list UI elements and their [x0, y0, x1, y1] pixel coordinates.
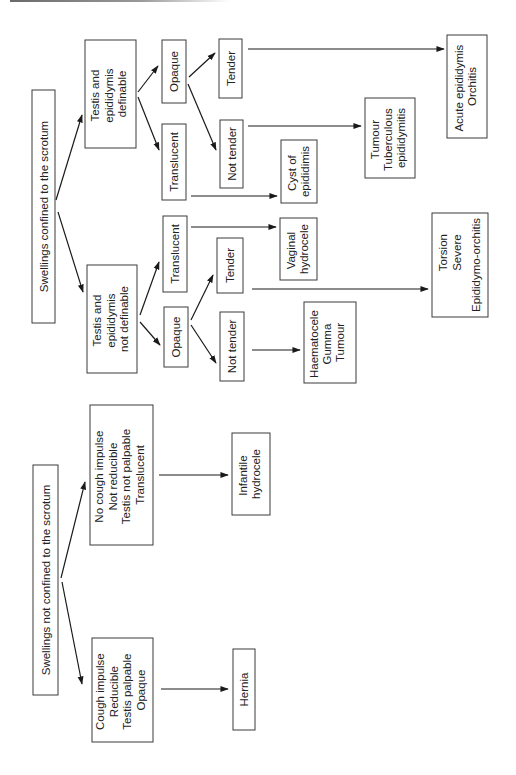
- node-not-definable-opaque-not-tender: Not tender: [220, 312, 244, 381]
- node-cough-impulse: Cough impulse Reducible Testis palpable …: [92, 638, 153, 742]
- edge-def-opaque-to-not-tender: [188, 84, 216, 150]
- node-label: Testis palpable: [121, 654, 133, 730]
- node-torsion-severe-epididymo-orchitis: Torsion Severe Epididymo-orchitis: [432, 213, 488, 317]
- svg-text:Swellings confined to the scro: Swellings confined to the scrotum: [38, 121, 50, 292]
- svg-text:Not tender: Not tender: [226, 127, 238, 181]
- node-hernia: Hernia: [233, 649, 255, 730]
- node-label: epididimis: [299, 146, 311, 197]
- node-label: Acute epididymis: [453, 44, 465, 131]
- node-label: Infantile: [237, 455, 249, 495]
- node-label: hydrocele: [250, 449, 262, 499]
- node-definable-translucent: Translucent: [162, 124, 186, 200]
- node-testis-epididymis-definable: Testis and epididymis definable: [85, 40, 136, 148]
- node-label: not definable: [118, 286, 130, 352]
- node-label: Epididymo-orchitis: [470, 218, 482, 312]
- node-label: Opaque: [168, 51, 180, 92]
- svg-text:Swellings not confined to the: Swellings not confined to the scrotum: [40, 485, 52, 676]
- edge-def-opaque-to-tender: [189, 53, 215, 77]
- node-label: Opaque: [170, 317, 182, 358]
- node-label: Opaque: [135, 670, 147, 711]
- svg-text:Testis and epididymis: Testis and epididymis definable: [89, 65, 128, 123]
- svg-text:Testis and epididymis: Testis and epididymis not definable: [91, 286, 130, 352]
- node-label: Not tender: [226, 319, 238, 373]
- svg-text:Tender: Tender: [225, 51, 237, 86]
- node-label: Gumma: [321, 323, 333, 365]
- node-label: Not tender: [226, 127, 238, 181]
- node-label: Tuberculous: [382, 108, 394, 171]
- edge-not-definable-to-translucent: [140, 262, 159, 315]
- edge-root-not-confined-to-cough: [62, 582, 82, 684]
- node-label: Tumour: [334, 323, 346, 362]
- node-label: hydrocele: [298, 224, 310, 274]
- node-label: definable: [116, 71, 128, 118]
- node-tumour-tuberculous-epididymitis: Tumour Tuberculous epididymitis: [365, 98, 415, 178]
- node-cyst-of-epididimis: Cyst of epididimis: [281, 140, 317, 203]
- node-label: Hernia: [238, 672, 250, 706]
- node-infantile-hydrocele: Infantile hydrocele: [232, 433, 270, 515]
- node-label: Translucent: [168, 131, 180, 191]
- node-label: epididymis: [103, 68, 115, 123]
- node-label: Orchitis: [466, 67, 478, 106]
- node-label: Cyst of: [286, 154, 298, 191]
- node-acute-epididymis-orchitis: Acute epididymis Orchitis: [447, 35, 487, 138]
- node-no-cough-impulse: No cough impulse Not reducible Testis no…: [90, 405, 153, 545]
- node-label: Torsion: [437, 234, 449, 271]
- node-not-definable-opaque-tender: Tender: [217, 238, 243, 293]
- node-label: Tender: [224, 248, 236, 283]
- node-haematocele-gumma-tumour: Haematocele Gumma Tumour: [304, 302, 356, 383]
- node-label: epididymis: [105, 293, 117, 348]
- edge-ndef-opaque-to-not-tender: [191, 325, 216, 363]
- node-definable-opaque-not-tender: Not tender: [220, 120, 243, 188]
- node-not-definable-translucent: Translucent: [163, 216, 187, 292]
- svg-text:Vaginal hydrocele: Vaginal hydrocele: [285, 224, 310, 274]
- node-label: Swellings confined to the scrotum: [38, 121, 50, 292]
- node-testis-epididymis-not-definable: Testis and epididymis not definable: [87, 265, 137, 373]
- svg-text:Hernia: Hernia: [238, 672, 250, 706]
- edge-ndef-opaque-to-tender: [191, 275, 213, 320]
- node-not-definable-opaque: Opaque: [164, 307, 188, 367]
- svg-text:Not tender: Not tender: [226, 319, 238, 373]
- node-label: Testis not palpable: [120, 429, 132, 524]
- node-label: No cough impulse: [93, 431, 105, 523]
- node-label: Cough impulse: [94, 653, 106, 730]
- node-label: Severe: [451, 234, 463, 270]
- node-label: Translucent: [169, 223, 181, 283]
- svg-text:Translucent: Translucent: [169, 223, 181, 283]
- flowchart-canvas: Swellings confined to the scrotum Swelli…: [0, 0, 516, 775]
- edge-root-confined-to-not-definable: [58, 212, 83, 292]
- node-label: Testis and: [91, 295, 103, 347]
- edge-not-definable-to-opaque: [140, 322, 160, 345]
- edge-root-confined-to-definable: [56, 115, 82, 200]
- edge-definable-to-opaque: [138, 66, 158, 92]
- node-label: Swellings not confined to the scrotum: [40, 485, 52, 676]
- node-label: Translucent: [134, 444, 146, 504]
- svg-text:Infantile hydrocele: Infantile hydrocele: [237, 449, 262, 499]
- svg-text:Cyst of epididimis: Cyst of epididimis: [286, 146, 311, 197]
- edge-definable-to-translucent: [138, 97, 159, 150]
- node-definable-opaque: Opaque: [162, 40, 186, 103]
- node-vaginal-hydrocele: Vaginal hydrocele: [280, 218, 317, 280]
- node-label: Testis and: [89, 70, 101, 122]
- node-label: Haematocele: [308, 310, 320, 378]
- node-root-confined: Swellings confined to the scrotum: [32, 90, 55, 323]
- svg-text:Opaque: Opaque: [168, 51, 180, 92]
- node-root-not-confined: Swellings not confined to the scrotum: [33, 465, 58, 695]
- svg-text:Opaque: Opaque: [170, 317, 182, 358]
- svg-text:Translucent: Translucent: [168, 131, 180, 191]
- node-label: Tender: [225, 51, 237, 86]
- node-label: Not reducible: [107, 443, 119, 511]
- edge-root-not-confined-to-no-cough: [61, 482, 85, 578]
- node-label: epididymitis: [395, 108, 407, 168]
- node-label: Vaginal: [285, 232, 297, 270]
- node-label: Reducible: [108, 666, 120, 717]
- svg-text:Tender: Tender: [224, 248, 236, 283]
- node-definable-opaque-tender: Tender: [219, 39, 242, 98]
- node-label: Tumour: [369, 120, 381, 159]
